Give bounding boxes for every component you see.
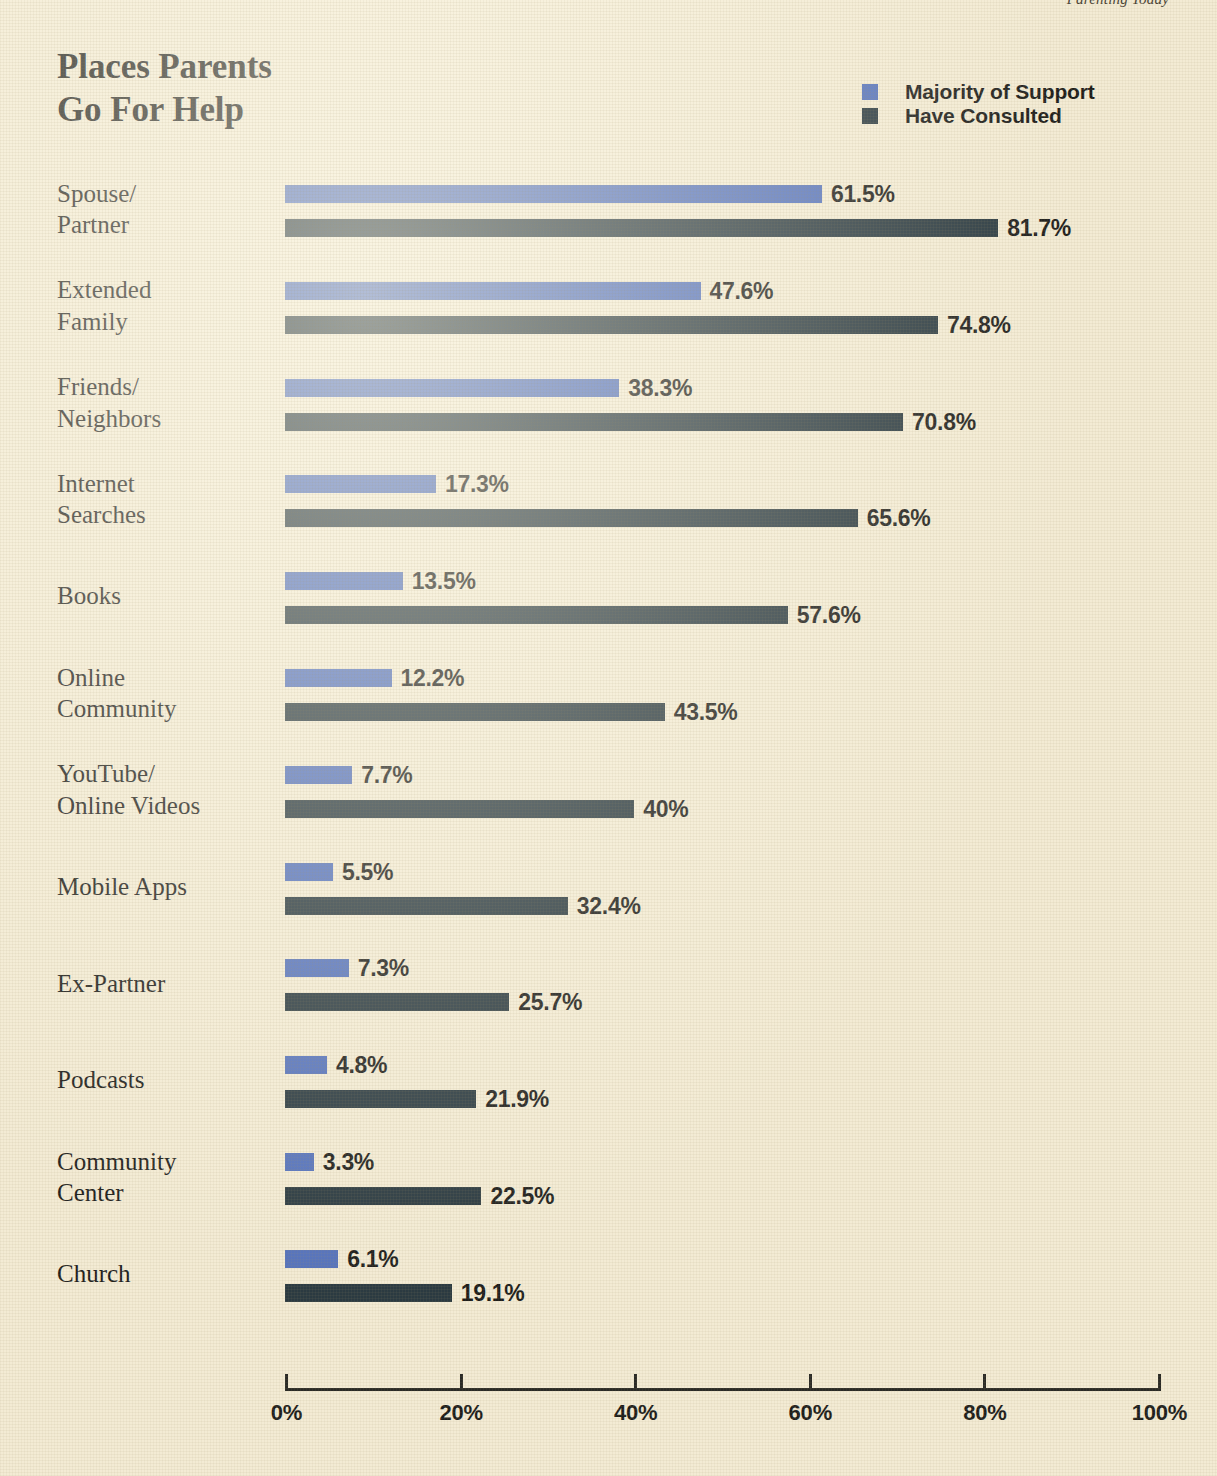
bar-value-label: 38.3%	[628, 374, 692, 401]
category-label: Podcasts	[57, 1064, 282, 1096]
bar-value-label: 7.7%	[361, 761, 412, 788]
bar-value-label: 12.2%	[401, 665, 465, 692]
bar-value-label: 65.6%	[867, 505, 931, 532]
bar-majority-of-support[interactable]	[285, 1250, 338, 1268]
bar-value-label: 3.3%	[323, 1149, 374, 1176]
bar-have-consulted[interactable]	[285, 219, 998, 237]
category-label: Mobile Apps	[57, 871, 282, 903]
bar-have-consulted[interactable]	[285, 993, 509, 1011]
category-label: Church	[57, 1258, 282, 1290]
axis-tick-label: 100%	[1132, 1400, 1187, 1426]
bar-track: 12.2%	[285, 669, 1158, 687]
bar-track: 19.1%	[285, 1284, 1158, 1302]
axis-tick-label: 20%	[439, 1400, 482, 1426]
category-label: Books	[57, 580, 282, 612]
bar-majority-of-support[interactable]	[285, 379, 619, 397]
axis-tick-mark	[983, 1374, 986, 1391]
bar-track: 40%	[285, 800, 1158, 818]
axis-tick-label: 60%	[789, 1400, 832, 1426]
category-label: Internet Searches	[57, 468, 282, 531]
bar-value-label: 32.4%	[577, 892, 641, 919]
axis-tick-mark	[809, 1374, 812, 1391]
bar-value-label: 81.7%	[1007, 215, 1071, 242]
bar-value-label: 21.9%	[485, 1086, 549, 1113]
bar-majority-of-support[interactable]	[285, 475, 436, 493]
bar-track: 5.5%	[285, 863, 1158, 881]
bar-majority-of-support[interactable]	[285, 572, 403, 590]
bar-majority-of-support[interactable]	[285, 766, 352, 784]
bar-chart-plot: Spouse/ Partner61.5%81.7%Extended Family…	[0, 0, 1217, 1476]
bar-majority-of-support[interactable]	[285, 669, 392, 687]
bar-track: 6.1%	[285, 1250, 1158, 1268]
bar-track: 61.5%	[285, 185, 1158, 203]
bar-value-label: 4.8%	[336, 1052, 387, 1079]
bar-majority-of-support[interactable]	[285, 282, 701, 300]
bar-track: 81.7%	[285, 219, 1158, 237]
bar-majority-of-support[interactable]	[285, 863, 333, 881]
bar-value-label: 5.5%	[342, 858, 393, 885]
bar-track: 70.8%	[285, 413, 1158, 431]
bar-value-label: 40%	[643, 795, 688, 822]
x-axis-line	[285, 1388, 1161, 1391]
axis-tick-mark	[460, 1374, 463, 1391]
axis-tick-label: 80%	[963, 1400, 1006, 1426]
bar-have-consulted[interactable]	[285, 316, 938, 334]
bar-track: 74.8%	[285, 316, 1158, 334]
bar-track: 3.3%	[285, 1153, 1158, 1171]
bar-track: 7.3%	[285, 959, 1158, 977]
category-label: Friends/ Neighbors	[57, 371, 282, 434]
axis-tick-mark	[285, 1374, 288, 1391]
bar-have-consulted[interactable]	[285, 606, 788, 624]
axis-tick-mark	[634, 1374, 637, 1391]
bar-value-label: 13.5%	[412, 568, 476, 595]
axis-tick-label: 0%	[271, 1400, 302, 1426]
bar-value-label: 17.3%	[445, 471, 509, 498]
bar-have-consulted[interactable]	[285, 897, 568, 915]
bar-value-label: 70.8%	[912, 408, 976, 435]
bar-majority-of-support[interactable]	[285, 185, 822, 203]
category-label: Online Community	[57, 662, 282, 725]
bar-track: 47.6%	[285, 282, 1158, 300]
bar-have-consulted[interactable]	[285, 413, 903, 431]
bar-value-label: 57.6%	[797, 602, 861, 629]
bar-track: 65.6%	[285, 509, 1158, 527]
bar-track: 13.5%	[285, 572, 1158, 590]
bar-value-label: 43.5%	[674, 699, 738, 726]
bar-have-consulted[interactable]	[285, 1187, 481, 1205]
bar-track: 4.8%	[285, 1056, 1158, 1074]
bar-value-label: 19.1%	[461, 1279, 525, 1306]
bar-majority-of-support[interactable]	[285, 1153, 314, 1171]
bar-majority-of-support[interactable]	[285, 959, 349, 977]
category-label: Spouse/ Partner	[57, 178, 282, 241]
bar-track: 22.5%	[285, 1187, 1158, 1205]
bar-have-consulted[interactable]	[285, 703, 665, 721]
bar-track: 57.6%	[285, 606, 1158, 624]
bar-track: 38.3%	[285, 379, 1158, 397]
bar-track: 32.4%	[285, 897, 1158, 915]
bar-track: 17.3%	[285, 475, 1158, 493]
category-label: Ex-Partner	[57, 968, 282, 1000]
bar-majority-of-support[interactable]	[285, 1056, 327, 1074]
bar-value-label: 7.3%	[358, 955, 409, 982]
bar-have-consulted[interactable]	[285, 1284, 452, 1302]
bar-value-label: 25.7%	[518, 989, 582, 1016]
bar-have-consulted[interactable]	[285, 800, 634, 818]
category-label: Community Center	[57, 1146, 282, 1209]
bar-value-label: 47.6%	[710, 277, 774, 304]
bar-value-label: 22.5%	[490, 1183, 554, 1210]
category-label: Extended Family	[57, 274, 282, 337]
category-label: YouTube/ Online Videos	[57, 758, 282, 821]
bar-value-label: 6.1%	[347, 1245, 398, 1272]
bar-track: 7.7%	[285, 766, 1158, 784]
bar-have-consulted[interactable]	[285, 509, 858, 527]
axis-tick-mark	[1158, 1374, 1161, 1391]
bar-track: 25.7%	[285, 993, 1158, 1011]
bar-have-consulted[interactable]	[285, 1090, 476, 1108]
bar-value-label: 74.8%	[947, 311, 1011, 338]
bar-track: 21.9%	[285, 1090, 1158, 1108]
bar-value-label: 61.5%	[831, 181, 895, 208]
bar-track: 43.5%	[285, 703, 1158, 721]
axis-tick-label: 40%	[614, 1400, 657, 1426]
